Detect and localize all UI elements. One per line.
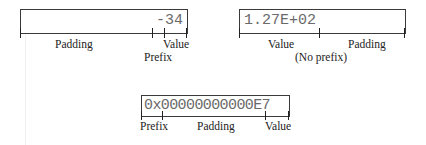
right-end-tick [186,28,187,38]
padding-label: Padding [55,39,93,51]
left-end-tick [20,28,21,38]
padding-label: Padding [348,39,386,51]
diagram-canvas: -34 Padding Value Prefix 1.27E+02 Value … [0,0,426,145]
right-end-tick [288,111,289,120]
value-label: Value [163,39,189,51]
field-value: -34 [156,13,183,28]
value-start-tick [164,28,165,38]
value-label: Value [265,121,291,133]
prefix-start-tick [152,28,153,38]
padding-label: Padding [197,121,235,133]
no-prefix-note: (No prefix) [295,52,347,64]
value-start-tick [265,111,266,120]
prefix-end-tick [162,111,163,120]
prefix-label: Prefix [140,121,168,133]
page-artifact-line [25,34,26,145]
value-label: Value [268,39,294,51]
right-end-tick [404,28,405,38]
left-end-tick [239,28,240,38]
field-value: 1.27E+02 [244,13,316,28]
left-end-tick [141,111,142,120]
prefix-label: Prefix [144,52,172,64]
value-end-tick [319,28,320,38]
